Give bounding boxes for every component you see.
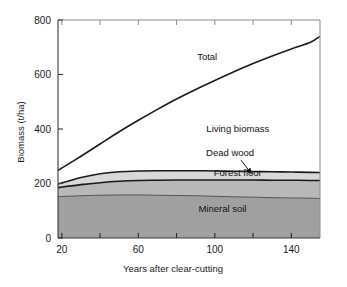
x-tick-label: 20 — [56, 244, 68, 255]
y-tick-label: 800 — [34, 15, 51, 26]
series-label-mineral-soil: Mineral soil — [198, 203, 246, 214]
y-axis-title: Biomass (t/ha) — [15, 101, 26, 162]
series-label-total: Total — [197, 51, 217, 62]
series-label-dead-wood: Dead wood — [206, 147, 254, 158]
x-tick-label: 100 — [206, 244, 223, 255]
chart-canvas: 0200400600800 2060100140 Years after cle… — [0, 0, 347, 287]
x-axis-tick-labels: 2060100140 — [56, 244, 300, 255]
series-label-forest-floor: Forest floor — [214, 167, 262, 178]
x-tick-label: 140 — [283, 244, 300, 255]
y-tick-label: 0 — [45, 233, 51, 244]
biomass-accumulation-chart: 0200400600800 2060100140 Years after cle… — [0, 0, 347, 287]
y-tick-label: 400 — [34, 124, 51, 135]
area-mineral-soil — [58, 195, 320, 238]
series-label-living-biomass: Living biomass — [206, 123, 269, 134]
y-tick-label: 200 — [34, 178, 51, 189]
x-tick-label: 60 — [133, 244, 145, 255]
x-axis-title: Years after clear-cutting — [123, 263, 223, 274]
y-axis-tick-labels: 0200400600800 — [34, 15, 51, 244]
y-tick-label: 600 — [34, 69, 51, 80]
